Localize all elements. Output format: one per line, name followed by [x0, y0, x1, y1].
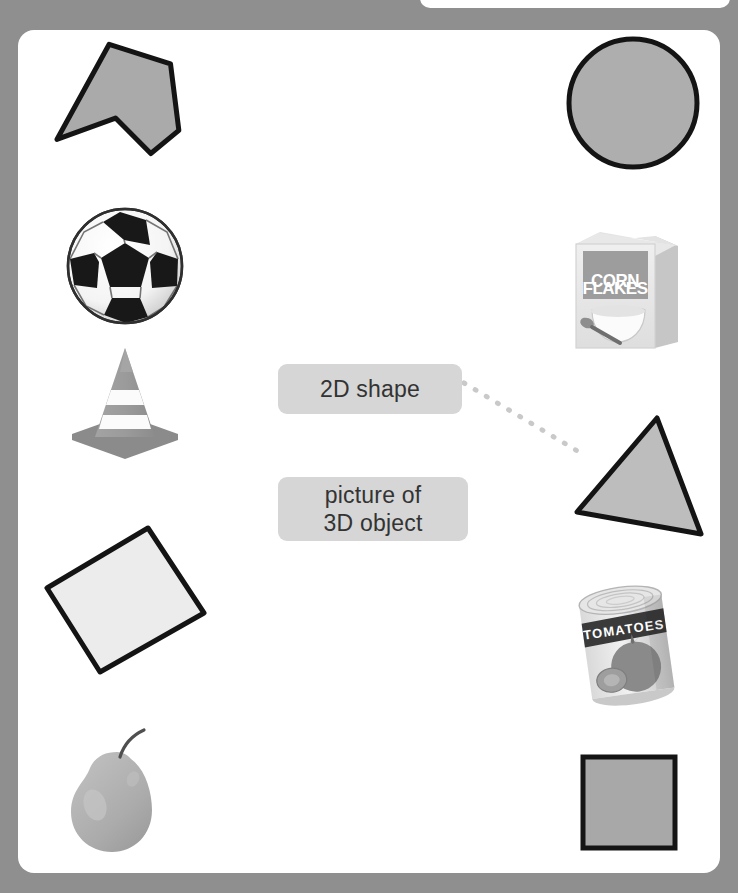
card-3d-object[interactable]: picture of 3D object [278, 477, 468, 541]
top-white-bar [420, 0, 730, 8]
card-3d-object-label: picture of 3D object [324, 481, 423, 537]
worksheet-panel [18, 30, 720, 873]
card-2d-shape[interactable]: 2D shape [278, 364, 462, 414]
card-2d-shape-label: 2D shape [320, 375, 420, 403]
card-3d-object-label-line2: 3D object [324, 509, 423, 537]
worksheet-canvas: CORN FLAKES [0, 0, 738, 893]
card-3d-object-label-line1: picture of [324, 481, 423, 509]
watermark [10, 752, 24, 842]
